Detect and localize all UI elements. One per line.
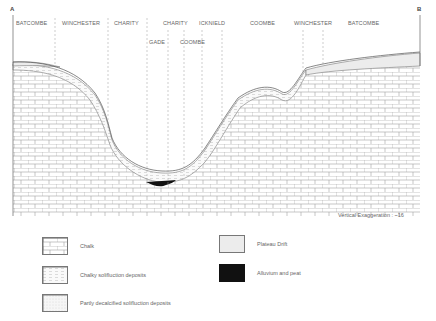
zone-label: GADE [149, 39, 165, 45]
legend-decalcified-solifluction: Partly decalcified solifluction deposits [42, 294, 171, 312]
zone-label: BATCOMBE [348, 20, 379, 26]
chalk-swatch-icon [42, 237, 68, 255]
legend-label: Alluvium and peat [257, 270, 301, 276]
section-end-label-a: A [10, 6, 14, 12]
vertical-exaggeration: Vertical Exaggeration : ~16 [338, 212, 404, 218]
chalky-swatch-icon [42, 266, 68, 284]
legend-label: Plateau Drift [257, 241, 287, 247]
zone-label: COOMBE [250, 20, 275, 26]
zone-label: COOMBE [180, 39, 205, 45]
legend-label: Chalky solifluction deposits [80, 272, 146, 278]
alluvium-swatch-icon [219, 264, 245, 282]
legend-chalky-solifluction: Chalky solifluction deposits [42, 266, 146, 284]
legend-plateau-drift: Plateau Drift [219, 235, 287, 253]
zone-label: CHARITY [114, 20, 139, 26]
legend-label: Partly decalcified solifluction deposits [80, 300, 171, 306]
zone-label: BATCOMBE [16, 20, 47, 26]
zone-label: ICKNIELD [199, 20, 225, 26]
legend-alluvium-peat: Alluvium and peat [219, 264, 301, 282]
decalcified-swatch-icon [42, 294, 68, 312]
zone-label: WINCHESTER [294, 20, 332, 26]
plateau-swatch-icon [219, 235, 245, 253]
section-end-label-b: B [417, 6, 421, 12]
legend-chalk: Chalk [42, 237, 94, 255]
zone-label: WINCHESTER [62, 20, 100, 26]
legend-label: Chalk [80, 243, 94, 249]
zone-label: CHARITY [163, 20, 188, 26]
